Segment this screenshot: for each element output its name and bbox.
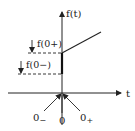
y-axis-label: f(t) [66,8,82,19]
zero-minus-arrow-icon [44,94,61,111]
x-axis-label: t [126,88,130,99]
zero-label: 0 [59,115,65,126]
zero-plus-arrow-icon [63,94,80,111]
ramp-line [62,32,101,53]
lower-level-label: f(0−) [26,59,51,70]
zero-minus-label: 0− [33,112,46,125]
upper-level-label: f(0+) [37,38,62,49]
jump-discontinuity-diagram: f(t) t f(0+) f(0−) 0− 0 0+ [0,0,135,131]
zero-plus-label: 0+ [80,112,93,125]
